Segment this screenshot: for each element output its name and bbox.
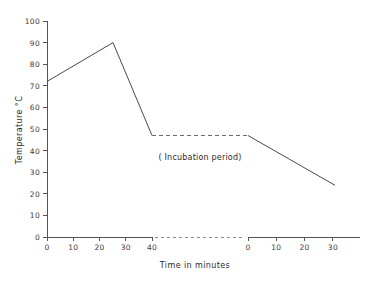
incubation-period-annotation: ( Incubation period): [158, 153, 241, 162]
x2-tick-label-20: 20: [300, 243, 310, 252]
x2-tick-label-10: 10: [271, 243, 281, 252]
y-tick-label-40: 40: [30, 147, 40, 156]
y-tick-label-100: 100: [25, 17, 40, 26]
x1-tick-label-10: 10: [68, 243, 78, 252]
x1-tick-label-30: 30: [121, 243, 131, 252]
x-axis-title: Time in minutes: [159, 261, 230, 270]
x1-tick-label-40: 40: [147, 243, 157, 252]
y-tick-label-50: 50: [30, 125, 40, 134]
data-line-heating: [47, 43, 152, 136]
y-tick-label-20: 20: [30, 190, 40, 199]
y-tick-label-60: 60: [30, 103, 40, 112]
chart-container: 0 10 20 30 40 50 60 70 80 90 100 Tempera…: [0, 0, 378, 281]
y-tick-label-90: 90: [30, 39, 40, 48]
y-axis-title: Temperature °C: [15, 96, 24, 165]
x1-tick-label-20: 20: [94, 243, 104, 252]
y-tick-label-10: 10: [30, 211, 40, 220]
data-line-cooling: [248, 136, 335, 186]
x2-tick-label-0: 0: [245, 243, 250, 252]
x1-tick-label-0: 0: [44, 243, 49, 252]
line-chart-plot: 0 10 20 30 40 50 60 70 80 90 100 Tempera…: [0, 0, 378, 281]
y-tick-label-0: 0: [35, 233, 40, 242]
y-tick-label-80: 80: [30, 60, 40, 69]
x2-tick-label-30: 30: [328, 243, 338, 252]
y-tick-label-70: 70: [30, 82, 40, 91]
y-tick-label-30: 30: [30, 168, 40, 177]
